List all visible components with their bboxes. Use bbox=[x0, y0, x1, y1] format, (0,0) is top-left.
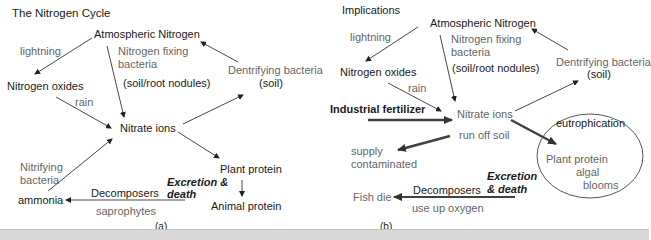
node-plant-protein-b: Plant protein bbox=[546, 153, 608, 166]
label-decomposers: Decomposers bbox=[91, 187, 159, 200]
node-ammonia: ammonia bbox=[18, 194, 63, 207]
node-nitrogen-oxides-b: Nitrogen oxides bbox=[340, 66, 416, 79]
panel-a-title: The Nitrogen Cycle bbox=[12, 7, 110, 20]
label-soil-root-nodules: (soil/root nodules) bbox=[123, 77, 210, 90]
label-excretion-b: Excretion bbox=[487, 170, 537, 183]
arrow-to-plant-protein-b bbox=[511, 120, 556, 144]
node-animal-protein: Animal protein bbox=[211, 200, 281, 213]
node-dentrifying-soil-b: (soil) bbox=[587, 68, 611, 81]
label-nitrifying: Nitrifying bbox=[20, 161, 63, 174]
node-algal: algal bbox=[576, 166, 599, 179]
label-bacteria: bacteria bbox=[118, 58, 157, 71]
arrow-to-dentrifying-b bbox=[515, 81, 578, 111]
bottom-border bbox=[0, 229, 649, 240]
node-fish-die: Fish die bbox=[353, 191, 392, 204]
label-saprophytes: saprophytes bbox=[96, 205, 156, 218]
arrow-to-atmospheric-b bbox=[532, 29, 568, 50]
label-nitrogen-fixing-b: Nitrogen fixing bbox=[451, 33, 521, 46]
node-contaminated: contaminated bbox=[351, 158, 417, 171]
panel-b-title: Implications bbox=[342, 4, 400, 17]
label-rain: rain bbox=[75, 96, 93, 109]
label-eutrophication: eutrophication bbox=[556, 117, 625, 130]
label-lightning: lightning bbox=[20, 45, 61, 58]
node-nitrate-ions: Nitrate ions bbox=[120, 122, 176, 135]
label-lightning-b: lightning bbox=[350, 31, 391, 44]
implications-panel: Implications Atmospheric Nitrogen lightn… bbox=[320, 0, 649, 229]
label-death: death bbox=[167, 188, 196, 201]
node-supply: supply bbox=[351, 145, 383, 158]
arrow-to-dentrifying bbox=[183, 95, 243, 124]
arrow-run-off-b bbox=[398, 136, 450, 150]
arrow-to-plant-protein bbox=[178, 132, 219, 158]
node-dentrifying-bacteria: Dentrifying bacteria bbox=[228, 64, 323, 77]
node-blooms: blooms bbox=[583, 179, 618, 192]
arrow-to-atmospheric bbox=[201, 42, 238, 62]
label-use-up-oxygen: use up oxygen bbox=[412, 202, 484, 215]
label-rain-b: rain bbox=[408, 82, 426, 95]
label-bacteria-b: bacteria bbox=[451, 46, 490, 59]
node-nitrate-ions-b: Nitrate ions bbox=[457, 108, 513, 121]
label-soil-root-nodules-b: (soil/root nodules) bbox=[452, 62, 539, 75]
label-nitrifying-bacteria: bacteria bbox=[20, 174, 59, 187]
node-plant-protein: Plant protein bbox=[220, 163, 282, 176]
label-and-death-b: & death bbox=[487, 183, 527, 196]
label-nitrogen-fixing: Nitrogen fixing bbox=[118, 45, 188, 58]
node-dentrifying-soil: (soil) bbox=[259, 77, 283, 90]
node-atmospheric-nitrogen-b: Atmospheric Nitrogen bbox=[430, 17, 536, 30]
label-decomposers-b: Decomposers bbox=[413, 184, 481, 197]
label-run-off-soil: run off soil bbox=[459, 129, 510, 142]
node-atmospheric-nitrogen: Atmospheric Nitrogen bbox=[94, 28, 200, 41]
node-nitrogen-oxides: Nitrogen oxides bbox=[7, 80, 83, 93]
node-industrial-fertilizer: Industrial fertilizer bbox=[330, 103, 425, 116]
nitrogen-cycle-panel: The Nitrogen Cycle Atmospheric Nitrogen … bbox=[0, 0, 320, 229]
